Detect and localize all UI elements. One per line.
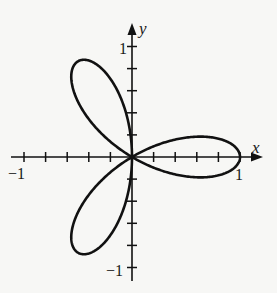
x-axis-label: x [251,138,260,157]
y-axis-label: y [137,19,147,38]
axes [11,23,263,281]
y-axis-arrow-icon [128,23,137,35]
x-tick-label-one: 1 [235,166,243,183]
y-tick-label-neg-one: −1 [106,262,123,279]
x-tick-label-neg-one: −1 [8,165,25,182]
y-tick-label-one: 1 [119,40,127,57]
rose-curve-plot: x y −1 1 1 −1 [0,0,277,293]
